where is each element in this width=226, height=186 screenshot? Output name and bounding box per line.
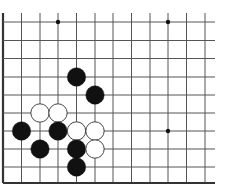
black-stone <box>49 122 67 140</box>
black-stone <box>31 140 49 158</box>
black-stone <box>86 86 104 104</box>
black-stone <box>12 122 30 140</box>
go-board <box>0 0 226 186</box>
black-stone <box>67 158 85 176</box>
black-stone <box>67 68 85 86</box>
white-stone <box>49 104 67 122</box>
white-stone <box>31 104 49 122</box>
white-stone <box>86 122 104 140</box>
white-stone <box>67 122 85 140</box>
black-stone <box>67 140 85 158</box>
star-point-icon <box>166 129 170 133</box>
white-stone <box>86 140 104 158</box>
board-grid <box>3 13 215 183</box>
star-point-icon <box>166 20 170 24</box>
star-point-icon <box>56 20 60 24</box>
